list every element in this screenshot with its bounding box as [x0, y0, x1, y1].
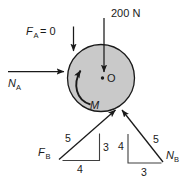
label-fb-subscript: B	[46, 152, 51, 161]
label-fa-equals-zero: = 0	[40, 25, 56, 37]
label-force-200n: 200 N	[111, 7, 140, 19]
label-moment-m: M	[90, 99, 100, 111]
label-fb-triangle-hypotenuse: 5	[65, 132, 71, 144]
free-body-diagram: F A = 0 200 N N A M O F B N B 5 3 4 5 4 …	[0, 0, 190, 185]
label-na-subscript: A	[16, 83, 21, 92]
label-fb-triangle-vertical: 3	[103, 141, 109, 153]
label-nb-triangle-vertical: 4	[118, 140, 124, 152]
label-na: N	[8, 77, 16, 89]
label-center-o: O	[107, 72, 116, 84]
label-nb-triangle-horizontal: 3	[141, 166, 147, 178]
label-fa-subscript: A	[34, 31, 39, 40]
diagram-canvas: F A = 0 200 N N A M O F B N B 5 3 4 5 4 …	[0, 0, 190, 185]
center-point-o	[101, 76, 104, 79]
label-nb: N	[166, 149, 174, 161]
label-nb-subscript: B	[174, 155, 179, 164]
label-fb-triangle-horizontal: 4	[77, 163, 83, 175]
label-nb-triangle-hypotenuse: 5	[153, 133, 159, 145]
